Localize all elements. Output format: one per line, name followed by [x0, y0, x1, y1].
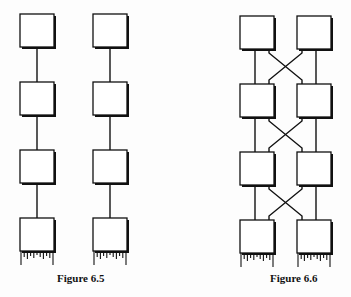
figure-6-6	[240, 16, 333, 267]
processor-box	[240, 152, 274, 185]
processor-box	[20, 14, 54, 47]
cross-link	[269, 185, 302, 220]
cross-link	[269, 49, 302, 84]
processor-box	[93, 14, 127, 47]
processor-box	[297, 84, 331, 117]
processor-box	[297, 16, 331, 49]
processor-box	[297, 152, 331, 185]
diagram-canvas	[0, 0, 351, 297]
processor-box	[93, 218, 127, 251]
processor-box	[20, 150, 54, 183]
figure-6-5	[20, 14, 129, 265]
cross-link	[269, 117, 302, 152]
processor-box	[20, 82, 54, 115]
processor-box	[20, 218, 54, 251]
processor-box	[297, 220, 331, 253]
figure-6-6-caption: Figure 6.6	[270, 272, 317, 284]
processor-box	[240, 16, 274, 49]
processor-box	[240, 220, 274, 253]
processor-box	[240, 84, 274, 117]
figure-6-5-caption: Figure 6.5	[57, 272, 104, 284]
processor-box	[93, 150, 127, 183]
processor-box	[93, 82, 127, 115]
